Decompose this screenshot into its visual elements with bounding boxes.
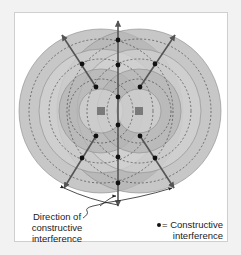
source-right [135, 107, 143, 115]
legend: = Constructive interference [133, 219, 223, 241]
constructive-point [116, 181, 121, 186]
constructive-point [116, 95, 121, 100]
legend-text-2: interference [133, 230, 223, 241]
source-left [97, 107, 105, 115]
direction-label-line-2: constructive [22, 222, 92, 233]
constructive-point [80, 62, 85, 67]
constructive-point [94, 134, 99, 139]
constructive-point [153, 62, 158, 67]
constructive-point [116, 155, 121, 160]
constructive-point [116, 63, 121, 68]
direction-label: Direction of constructive interference [22, 211, 92, 244]
constructive-point [116, 123, 121, 128]
legend-text-1: = Constructive [162, 219, 223, 230]
legend-dot-icon [157, 223, 161, 227]
direction-label-line-1: Direction of [22, 211, 92, 222]
constructive-point [153, 156, 158, 161]
constructive-point [116, 38, 121, 43]
constructive-point [138, 134, 143, 139]
direction-label-line-3: interference [22, 233, 92, 244]
constructive-point [80, 156, 85, 161]
constructive-point [138, 85, 143, 90]
constructive-point [94, 85, 99, 90]
